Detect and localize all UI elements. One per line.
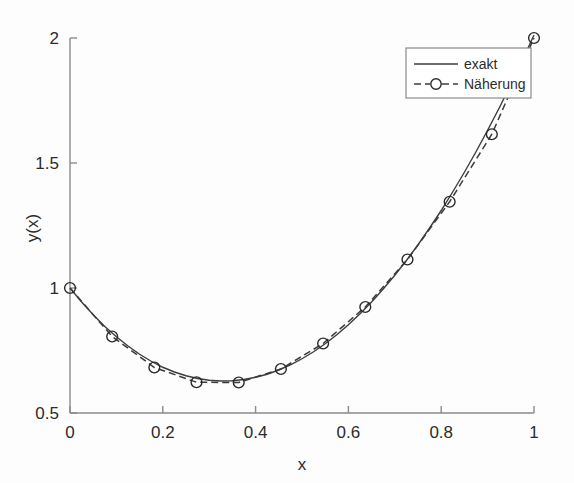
legend[interactable]: exakt Näherung [406,48,531,98]
x-tick-label: 1 [529,423,538,442]
y-tick-label: 0.5 [35,404,59,423]
y-tick-label: 2 [50,29,59,48]
x-tick-group: 00.20.40.60.81 [65,406,538,442]
legend-label-naeherung: Näherung [464,76,526,92]
x-tick-label: 0.2 [151,423,175,442]
y-tick-label: 1 [50,279,59,298]
x-tick-label: 0.4 [244,423,268,442]
line-chart: 0.511.52 00.20.40.60.81 x y(x) exakt Näh… [0,0,574,483]
x-tick-label: 0 [65,423,74,442]
y-tick-label: 1.5 [35,154,59,173]
figure-canvas: 0.511.52 00.20.40.60.81 x y(x) exakt Näh… [0,0,574,483]
y-axis-title: y(x) [23,214,42,242]
x-tick-label: 0.6 [337,423,361,442]
legend-label-exakt: exakt [464,56,498,72]
x-axis-title: x [298,455,307,474]
x-tick-label: 0.8 [429,423,453,442]
